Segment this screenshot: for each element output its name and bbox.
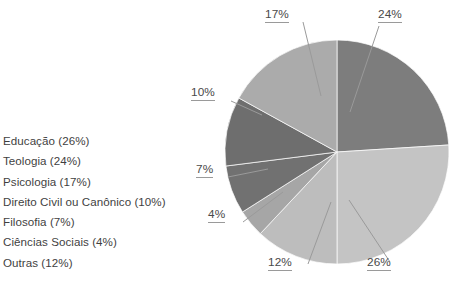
pie-svg	[0, 0, 454, 293]
pie-label-ciencias-sociais: 4%	[208, 207, 225, 223]
pie-chart-figure: Educação (26%) Teologia (24%) Psicologia…	[0, 0, 454, 293]
pie-label-direito: 10%	[191, 85, 215, 101]
pie-label-filosofia: 7%	[196, 162, 213, 178]
pie-label-psicologia: 17%	[265, 7, 289, 23]
pie-label-educacao: 26%	[367, 255, 391, 271]
pie-slices	[225, 40, 449, 264]
pie-slice	[337, 145, 449, 264]
pie-slice	[337, 40, 449, 152]
pie-label-teologia: 24%	[378, 7, 402, 23]
pie-label-outras: 12%	[268, 255, 292, 271]
pie-plot-area: 17% 24% 10% 7% 4% 12% 26%	[0, 0, 454, 293]
